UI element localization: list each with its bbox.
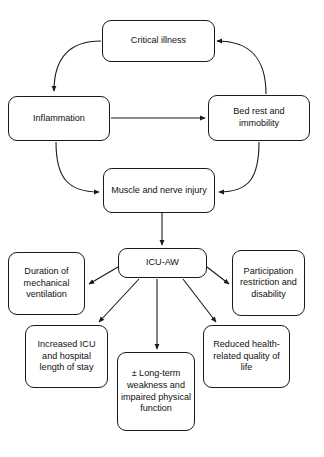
edge-icuaw-to-participation [207,267,229,284]
node-critical-illness-label: Critical illness [128,35,189,47]
node-icu-aw-label: ICU-AW [143,257,182,269]
node-increased-length-of-stay[interactable]: Increased ICU and hospital length of sta… [25,325,108,388]
node-bed-rest-label: Bed rest and immobility [209,106,309,129]
node-reduced-quality-of-life[interactable]: Reduced health-related quality of life [203,325,290,388]
edge-icuaw-to-reduced-hrqol [183,279,216,322]
node-duration-ventilation-label: Duration of mechanical ventilation [9,266,84,301]
node-bed-rest-and-immobility[interactable]: Bed rest and immobility [208,95,310,141]
edge-icuaw-to-duration [89,267,118,284]
node-duration-mechanical-ventilation[interactable]: Duration of mechanical ventilation [8,252,85,315]
node-long-term-weakness[interactable]: ± Long-term weakness and impaired physic… [117,352,195,431]
node-inflammation[interactable]: Inflammation [8,96,110,141]
edge-critical-to-inflammation [54,41,101,91]
node-muscle-injury-label: Muscle and nerve injury [108,185,210,197]
node-icu-aw[interactable]: ICU-AW [118,248,207,278]
node-participation-label: Participation restriction and disability [233,266,304,301]
node-critical-illness[interactable]: Critical illness [102,20,215,62]
node-participation-restriction[interactable]: Participation restriction and disability [232,250,305,316]
edge-bedrest-to-muscle [219,142,259,192]
node-inflammation-label: Inflammation [30,113,88,125]
edge-icuaw-to-increased-los [99,279,139,322]
edge-bedrest-to-critical [217,41,266,94]
node-increased-los-label: Increased ICU and hospital length of sta… [26,339,107,374]
node-muscle-and-nerve-injury[interactable]: Muscle and nerve injury [103,168,215,213]
node-long-term-label: ± Long-term weakness and impaired physic… [118,368,194,414]
edge-inflammation-to-muscle [56,142,99,192]
diagram-canvas: Critical illness Inflammation Bed rest a… [0,0,324,457]
node-reduced-hrqol-label: Reduced health-related quality of life [204,339,289,374]
